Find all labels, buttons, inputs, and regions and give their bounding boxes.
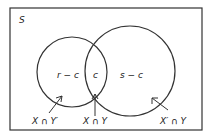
region-label-y-only: s − c [120,70,143,80]
region-label-x-only: r − c [57,70,79,80]
arrows [49,94,168,116]
set-label-x-and-y: X ∩ Y [82,116,108,126]
universe-label: S [19,15,25,25]
set-label-not-x-and-y: X′ ∩ Y [159,116,188,126]
region-label-intersection: c [93,70,98,80]
universe-box [10,8,202,130]
venn-diagram: S r − c c s − c X ∩ Y′ X ∩ Y X′ ∩ Y [0,0,208,140]
set-label-x-and-not-y: X ∩ Y′ [31,116,58,126]
